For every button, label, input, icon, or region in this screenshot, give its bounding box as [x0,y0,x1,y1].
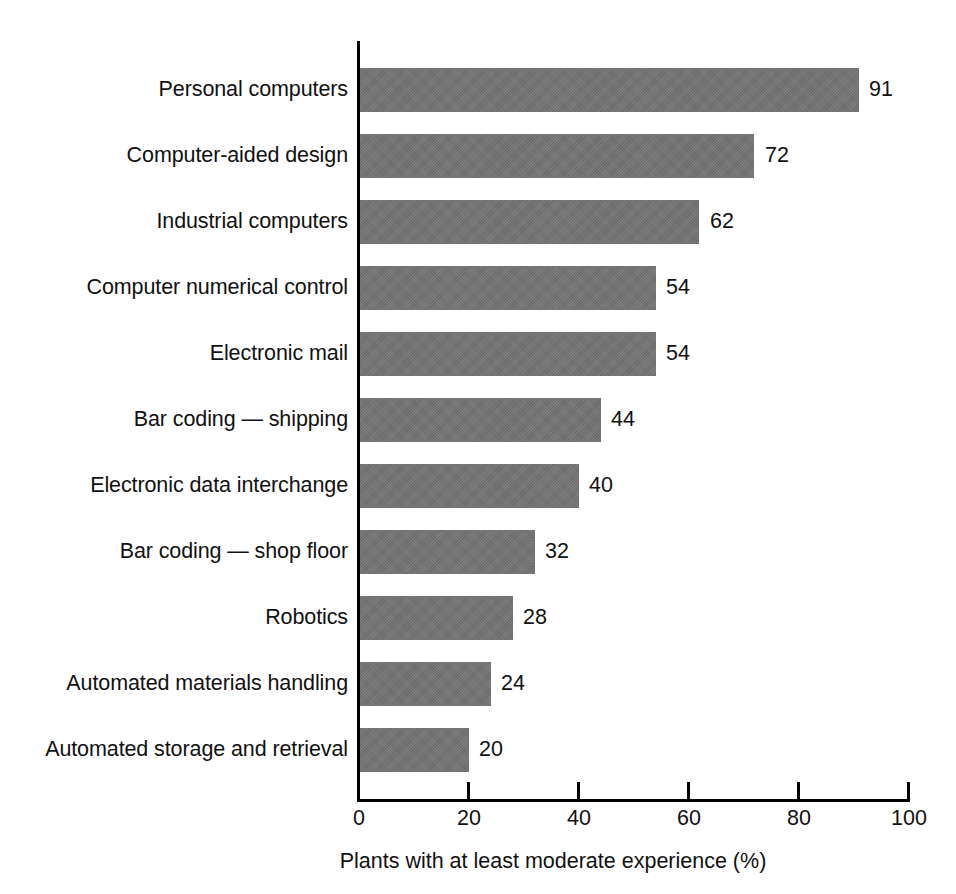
x-axis-line [357,799,910,802]
category-label: Personal computers [8,79,348,101]
x-axis-tick [577,782,580,800]
category-label: Automated materials handling [8,673,348,695]
bar-value-label: 20 [479,739,503,761]
category-label: Electronic mail [8,343,348,365]
bar-value-label: 54 [666,343,690,365]
bar [359,464,579,508]
x-axis-tick-label: 60 [677,808,701,830]
x-axis-tick [357,782,360,800]
category-label: Bar coding — shipping [8,409,348,431]
bar-value-label: 54 [666,277,690,299]
bar-value-label: 91 [869,79,893,101]
x-axis-tick [907,782,910,800]
bar [359,728,469,772]
bar [359,530,535,574]
bar-value-label: 40 [589,475,613,497]
x-axis-tick [467,782,470,800]
category-label: Bar coding — shop floor [8,541,348,563]
category-label: Electronic data interchange [8,475,348,497]
bar-value-label: 24 [501,673,525,695]
y-axis-line [357,41,360,801]
category-label: Industrial computers [8,211,348,233]
bar-value-label: 44 [611,409,635,431]
bar-value-label: 62 [710,211,734,233]
bar [359,134,754,178]
x-axis-tick-label: 100 [891,808,927,830]
bar [359,596,513,640]
category-label: Computer-aided design [8,145,348,167]
x-axis-tick [797,782,800,800]
bar [359,266,656,310]
category-label: Robotics [8,607,348,629]
x-axis-tick [687,782,690,800]
x-axis-tick-label: 0 [353,808,365,830]
bar-chart: Personal computers Computer-aided design… [0,0,956,894]
bar [359,332,656,376]
bar-value-label: 72 [765,145,789,167]
bar [359,68,859,112]
category-label: Computer numerical control [8,277,348,299]
x-axis-title: Plants with at least moderate experience… [0,851,956,873]
category-label: Automated storage and retrieval [8,739,348,761]
bar-value-label: 32 [545,541,569,563]
bar [359,398,601,442]
x-axis-tick-label: 40 [567,808,591,830]
bar [359,662,491,706]
x-axis-tick-label: 20 [457,808,481,830]
bar-value-label: 28 [523,607,547,629]
bar [359,200,699,244]
x-axis-tick-label: 80 [787,808,811,830]
